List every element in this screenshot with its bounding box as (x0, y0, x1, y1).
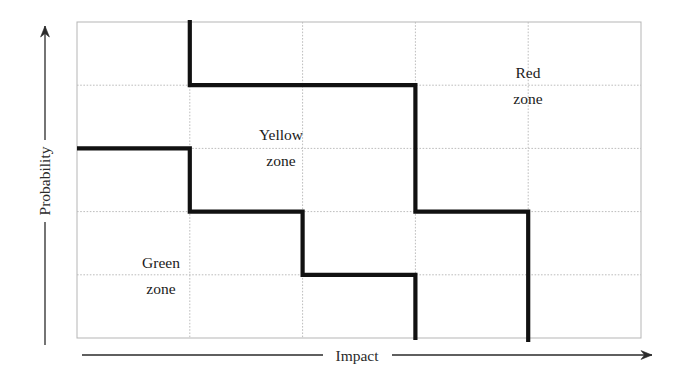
zone-label-red-name: Red (516, 64, 541, 81)
y-axis-label: Probability (36, 146, 53, 215)
zone-label-yellow-suffix: zone (266, 152, 295, 169)
zone-label-red-suffix: zone (513, 90, 542, 107)
risk-matrix-figure: Red zone Yellow zone Green zone Impact (0, 0, 673, 388)
zone-label-green-name: Green (142, 254, 180, 271)
zone-label-yellow-name: Yellow (259, 126, 304, 143)
x-axis-label: Impact (335, 347, 379, 364)
y-axis: Probability (36, 26, 53, 345)
zone-label-green-suffix: zone (146, 280, 175, 297)
x-axis: Impact (82, 347, 652, 364)
